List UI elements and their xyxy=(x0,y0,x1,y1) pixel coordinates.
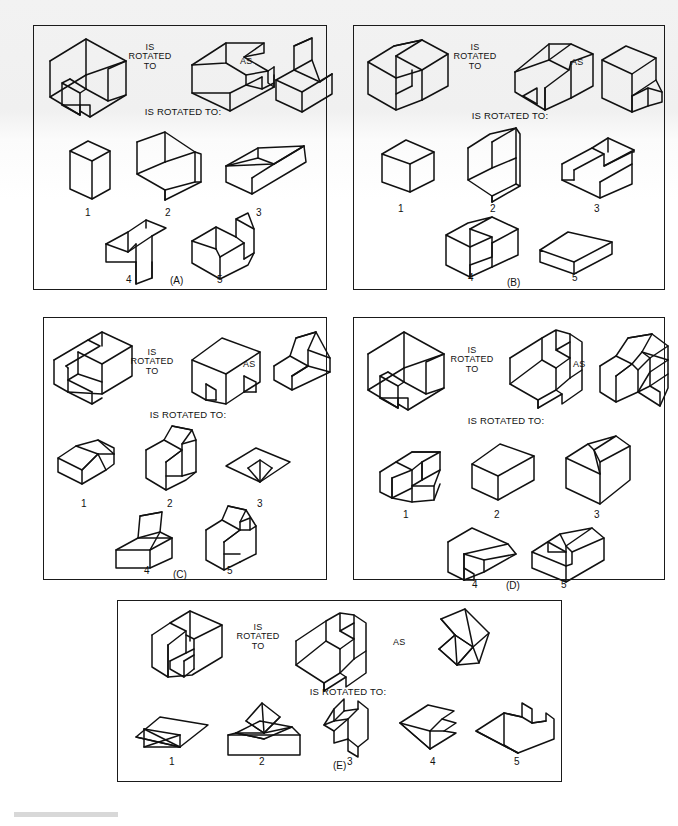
panel-B-prompt: IS ROTATED TO: xyxy=(440,111,580,121)
panel-C-prompt: IS ROTATED TO: xyxy=(120,410,256,420)
panel-C-connector-rotated-to: IS ROTATED TO xyxy=(124,348,180,376)
panel-A: IS ROTATED TO AS xyxy=(33,25,327,290)
panel-D-caption: (D) xyxy=(506,581,520,592)
panel-A-connector-rotated-to: IS ROTATED TO xyxy=(122,43,178,71)
panel-E-connector-rotated-to: IS ROTATED TO xyxy=(230,623,286,651)
panel-A-option-4-number: 4 xyxy=(126,275,132,286)
panel-C-option-1-number: 1 xyxy=(81,499,87,510)
panel-D-option-3-number: 3 xyxy=(594,510,600,521)
panel-E-option-5-number: 5 xyxy=(514,757,520,768)
panel-E-option-3-number: 3 xyxy=(347,757,353,768)
panel-E-option-2-number: 2 xyxy=(259,757,265,768)
panel-E-connector-as: AS xyxy=(393,638,405,647)
panel-D: IS ROTATED TO AS xyxy=(353,317,665,580)
panel-B-option-3-number: 3 xyxy=(594,204,600,215)
panel-B-option-1-number: 1 xyxy=(398,204,404,215)
panel-B-connector-rotated-to: IS ROTATED TO xyxy=(447,43,503,71)
panel-D-prompt: IS ROTATED TO: xyxy=(436,416,576,426)
panel-C-connector-as: AS xyxy=(243,360,255,369)
panel-C-caption: (C) xyxy=(173,570,187,581)
panel-C-option-4-number: 4 xyxy=(144,566,150,577)
panel-A-caption: (A) xyxy=(170,276,183,287)
panel-A-option-5-number: 5 xyxy=(217,275,223,286)
panel-B: IS ROTATED TO AS xyxy=(353,25,665,290)
panel-D-option-4-number: 4 xyxy=(472,580,478,591)
panel-B-option-5-number: 5 xyxy=(572,273,578,284)
rotation-test-figure: IS ROTATED TO AS xyxy=(0,0,678,826)
panel-B-caption: (B) xyxy=(507,278,520,289)
panel-D-option-5-number: 5 xyxy=(561,580,567,591)
panel-E-caption: (E) xyxy=(333,761,346,772)
scan-edge-artifact xyxy=(14,812,118,817)
panel-D-connector-as: AS xyxy=(573,360,585,369)
panel-A-connector-as: AS xyxy=(240,57,252,66)
panel-A-prompt: IS ROTATED TO: xyxy=(118,107,248,117)
panel-C-option-5-number: 5 xyxy=(227,566,233,577)
panel-E: IS ROTATED TO AS xyxy=(117,600,562,782)
panel-E-option-4-number: 4 xyxy=(430,757,436,768)
panel-D-connector-rotated-to: IS ROTATED TO xyxy=(444,346,500,374)
panel-D-option-1-number: 1 xyxy=(403,510,409,521)
panel-E-option-1-number: 1 xyxy=(169,757,175,768)
panel-C: IS ROTATED TO AS xyxy=(43,317,327,580)
panel-B-connector-as: AS xyxy=(571,58,583,67)
panel-A-option-1-number: 1 xyxy=(85,208,91,219)
panel-B-option-4-number: 4 xyxy=(468,273,474,284)
